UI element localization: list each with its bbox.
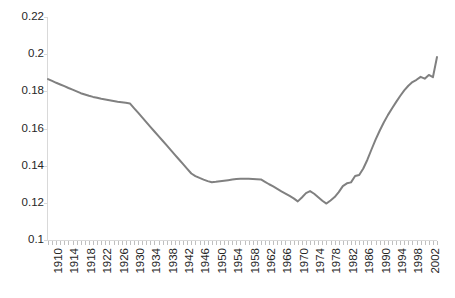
- x-axis-tick-mark: [404, 241, 405, 245]
- x-axis-tick-mark: [302, 241, 303, 245]
- x-axis-tick-mark: [56, 241, 57, 245]
- x-axis-tick-mark: [245, 241, 246, 245]
- x-axis-tick-mark: [216, 241, 217, 245]
- y-axis-tick-label: 0.1: [0, 234, 44, 246]
- x-axis-tick-mark: [52, 241, 53, 245]
- x-axis-tick-label: 1910: [53, 248, 65, 274]
- x-axis-tick-mark: [437, 241, 438, 245]
- x-axis-tick-mark: [380, 241, 381, 245]
- x-axis-tick-mark: [429, 241, 430, 245]
- x-axis-tick-label: 1998: [413, 248, 425, 274]
- x-axis-tick-label: 1922: [102, 248, 114, 274]
- x-axis-tick-mark: [93, 241, 94, 245]
- x-axis-tick-mark: [179, 241, 180, 245]
- x-axis-tick-mark: [195, 241, 196, 245]
- x-axis-tick-mark: [339, 241, 340, 245]
- x-axis-tick-mark: [220, 241, 221, 245]
- x-axis-tick-mark: [159, 241, 160, 245]
- x-axis-tick-mark: [400, 241, 401, 245]
- x-axis-tick-label: 1978: [331, 248, 343, 274]
- x-axis-tick-mark: [48, 241, 49, 245]
- x-axis-tick-mark: [322, 241, 323, 245]
- x-axis-tick-mark: [224, 241, 225, 245]
- x-axis-tick-mark: [204, 241, 205, 245]
- x-axis-tick-mark: [167, 241, 168, 245]
- x-axis-tick-mark: [191, 241, 192, 245]
- x-axis-tick-mark: [236, 241, 237, 245]
- x-axis-tick-mark: [392, 241, 393, 245]
- x-axis-tick-mark: [142, 241, 143, 245]
- x-axis-tick-mark: [122, 241, 123, 245]
- x-axis-tick-mark: [118, 241, 119, 245]
- x-axis-tick-mark: [318, 241, 319, 245]
- x-axis-tick-mark: [163, 241, 164, 245]
- x-axis-tick-label: 1974: [315, 248, 327, 274]
- x-axis-tick-mark: [81, 241, 82, 245]
- x-axis-tick-label: 1950: [217, 248, 229, 274]
- y-axis-tick-label: 0.16: [0, 123, 44, 135]
- x-axis-tick-mark: [396, 241, 397, 245]
- x-axis-tick-mark: [277, 241, 278, 245]
- x-axis-tick-mark: [212, 241, 213, 245]
- x-axis-tick-mark: [384, 241, 385, 245]
- y-axis-labels: 0.10.120.140.160.180.20.22: [0, 0, 44, 298]
- x-axis-tick-label: 2002: [430, 248, 442, 274]
- x-axis-tick-mark: [138, 241, 139, 245]
- x-axis-tick-mark: [101, 241, 102, 245]
- x-axis-tick-mark: [146, 241, 147, 245]
- x-axis-tick-mark: [175, 241, 176, 245]
- x-axis-tick-mark: [126, 241, 127, 245]
- x-axis-tick-mark: [433, 241, 434, 245]
- x-axis-tick-mark: [257, 241, 258, 245]
- x-axis-tick-label: 1926: [119, 248, 131, 274]
- x-axis-tick-mark: [363, 241, 364, 245]
- y-axis-tick-label: 0.22: [0, 11, 44, 23]
- x-axis-tick-mark: [253, 241, 254, 245]
- y-axis-tick-label: 0.18: [0, 85, 44, 97]
- x-axis-tick-mark: [261, 241, 262, 245]
- x-axis-tick-mark: [200, 241, 201, 245]
- x-axis-tick-mark: [64, 241, 65, 245]
- x-axis-tick-label: 1942: [184, 248, 196, 274]
- x-axis-tick-mark: [417, 241, 418, 245]
- x-axis-tick-label: 1990: [381, 248, 393, 274]
- x-axis-tick-mark: [425, 241, 426, 245]
- x-axis-tick-mark: [343, 241, 344, 245]
- x-axis-tick-mark: [371, 241, 372, 245]
- x-axis-tick-mark: [265, 241, 266, 245]
- x-axis-tick-mark: [298, 241, 299, 245]
- x-axis-tick-mark: [355, 241, 356, 245]
- data-line-svg: [48, 17, 437, 240]
- x-axis-tick-mark: [359, 241, 360, 245]
- x-axis-tick-mark: [97, 241, 98, 245]
- x-axis-tick-mark: [376, 241, 377, 245]
- x-axis-tick-mark: [351, 241, 352, 245]
- x-axis-tick-label: 1914: [69, 248, 81, 274]
- x-axis-tick-label: 1994: [397, 248, 409, 274]
- y-axis-tick-label: 0.14: [0, 160, 44, 172]
- x-axis-tick-label: 1938: [168, 248, 180, 274]
- x-axis-tick-mark: [68, 241, 69, 245]
- x-axis-tick-mark: [408, 241, 409, 245]
- x-axis-tick-mark: [77, 241, 78, 245]
- x-axis-tick-mark: [240, 241, 241, 245]
- x-axis-tick-mark: [208, 241, 209, 245]
- x-axis-tick-mark: [89, 241, 90, 245]
- line-chart: 0.10.120.140.160.180.20.22 1910191419181…: [0, 0, 455, 298]
- x-axis-tick-mark: [60, 241, 61, 245]
- x-axis-tick-label: 1958: [250, 248, 262, 274]
- plot-area: [48, 17, 437, 240]
- x-axis-tick-mark: [273, 241, 274, 245]
- x-axis-tick-label: 1918: [86, 248, 98, 274]
- x-axis-tick-mark: [326, 241, 327, 245]
- x-axis-tick-mark: [134, 241, 135, 245]
- x-axis-tick-mark: [314, 241, 315, 245]
- x-axis-tick-label: 1934: [151, 248, 163, 274]
- x-axis-tick-mark: [335, 241, 336, 245]
- x-axis-tick-mark: [412, 241, 413, 245]
- data-series-line: [48, 57, 437, 204]
- x-axis-tick-label: 1946: [200, 248, 212, 274]
- x-axis-tick-mark: [294, 241, 295, 245]
- x-axis-tick-mark: [187, 241, 188, 245]
- x-axis-tick-label: 1930: [135, 248, 147, 274]
